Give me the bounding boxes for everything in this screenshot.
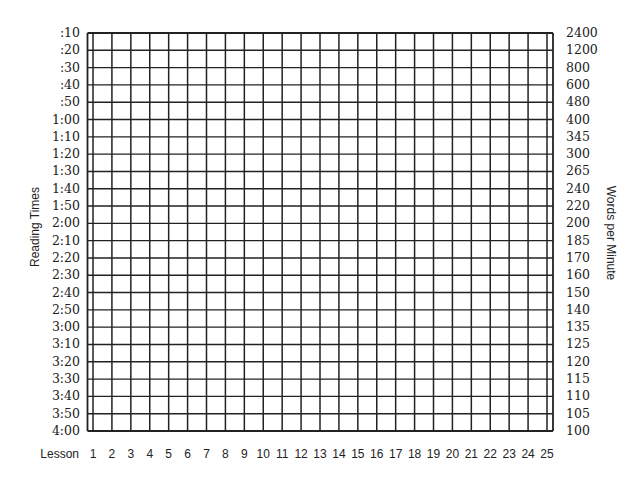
lesson-axis-title: Lesson — [40, 447, 79, 461]
lesson-tick: 22 — [480, 447, 500, 461]
words-per-minute-tick: 110 — [566, 389, 590, 403]
words-per-minute-tick: 220 — [566, 199, 590, 213]
lesson-tick: 13 — [310, 447, 330, 461]
reading-time-tick: 2:20 — [52, 251, 80, 265]
lesson-tick: 10 — [253, 447, 273, 461]
reading-time-tick: 3:00 — [52, 320, 80, 334]
reading-time-tick: 1:50 — [52, 199, 80, 213]
reading-time-tick: :20 — [60, 43, 80, 57]
lesson-tick: 18 — [405, 447, 425, 461]
words-per-minute-tick: 240 — [566, 182, 590, 196]
reading-times-axis-title: Reading Times — [28, 187, 42, 267]
words-per-minute-tick: 125 — [566, 337, 590, 351]
words-per-minute-tick: 160 — [566, 268, 590, 282]
lesson-tick: 12 — [291, 447, 311, 461]
reading-time-tick: 1:20 — [52, 147, 80, 161]
words-per-minute-tick: 170 — [566, 251, 590, 265]
lesson-tick: 23 — [499, 447, 519, 461]
reading-time-tick: 1:10 — [52, 130, 80, 144]
words-per-minute-axis-title: Words per Minute — [604, 186, 618, 280]
words-per-minute-tick: 150 — [566, 286, 590, 300]
words-per-minute-tick: 400 — [566, 113, 590, 127]
reading-time-tick: 1:30 — [52, 164, 80, 178]
lesson-tick: 17 — [386, 447, 406, 461]
chart-grid — [0, 0, 634, 485]
reading-time-tick: 2:40 — [52, 286, 80, 300]
reading-time-tick: 2:10 — [52, 234, 80, 248]
words-per-minute-tick: 265 — [566, 164, 590, 178]
lesson-tick: 8 — [215, 447, 235, 461]
words-per-minute-tick: 140 — [566, 303, 590, 317]
words-per-minute-tick: 185 — [566, 234, 590, 248]
words-per-minute-tick: 105 — [566, 407, 590, 421]
lesson-tick: 1 — [83, 447, 103, 461]
reading-time-tick: 3:40 — [52, 389, 80, 403]
reading-time-tick: :30 — [60, 61, 80, 75]
lesson-tick: 2 — [102, 447, 122, 461]
reading-time-tick: 2:30 — [52, 268, 80, 282]
reading-time-tick: 3:30 — [52, 372, 80, 386]
lesson-tick: 11 — [272, 447, 292, 461]
reading-time-tick: 1:40 — [52, 182, 80, 196]
lesson-tick: 14 — [329, 447, 349, 461]
lesson-tick: 25 — [537, 447, 557, 461]
lesson-tick: 9 — [234, 447, 254, 461]
lesson-tick: 5 — [159, 447, 179, 461]
reading-time-tick: :40 — [60, 78, 80, 92]
words-per-minute-tick: 135 — [566, 320, 590, 334]
lesson-tick: 7 — [197, 447, 217, 461]
reading-time-tick: 2:00 — [52, 216, 80, 230]
reading-time-tick: 3:20 — [52, 355, 80, 369]
reading-time-tick: 3:10 — [52, 337, 80, 351]
reading-time-tick: 4:00 — [52, 424, 80, 438]
lesson-tick: 3 — [121, 447, 141, 461]
lesson-tick: 24 — [518, 447, 538, 461]
words-per-minute-tick: 600 — [566, 78, 590, 92]
words-per-minute-tick: 115 — [566, 372, 590, 386]
words-per-minute-tick: 480 — [566, 95, 590, 109]
reading-time-tick: 2:50 — [52, 303, 80, 317]
reading-time-tick: :10 — [60, 26, 80, 40]
words-per-minute-tick: 2400 — [566, 26, 598, 40]
words-per-minute-tick: 100 — [566, 424, 590, 438]
words-per-minute-tick: 800 — [566, 61, 590, 75]
lesson-tick: 20 — [442, 447, 462, 461]
lesson-tick: 16 — [367, 447, 387, 461]
lesson-tick: 21 — [461, 447, 481, 461]
lesson-tick: 19 — [424, 447, 444, 461]
words-per-minute-tick: 300 — [566, 147, 590, 161]
words-per-minute-tick: 345 — [566, 130, 590, 144]
reading-progress-chart: :10:20:30:40:501:001:101:201:301:401:502… — [0, 0, 634, 485]
words-per-minute-tick: 1200 — [566, 43, 598, 57]
lesson-tick: 6 — [178, 447, 198, 461]
reading-time-tick: :50 — [60, 95, 80, 109]
lesson-tick: 15 — [348, 447, 368, 461]
reading-time-tick: 3:50 — [52, 407, 80, 421]
words-per-minute-tick: 120 — [566, 355, 590, 369]
reading-time-tick: 1:00 — [52, 113, 80, 127]
words-per-minute-tick: 200 — [566, 216, 590, 230]
lesson-tick: 4 — [140, 447, 160, 461]
